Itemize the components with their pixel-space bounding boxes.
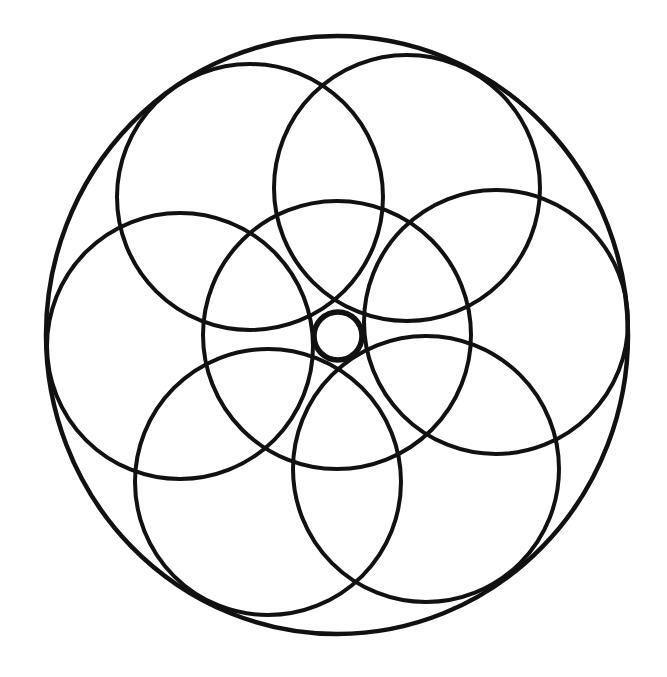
petal-circle-upper-right xyxy=(274,55,540,321)
rosette-diagram xyxy=(0,0,667,677)
petal-circle-left xyxy=(47,213,313,479)
petal-circle-bottom-left xyxy=(135,349,401,615)
petal-circles-group xyxy=(47,55,628,615)
outer-circle xyxy=(46,36,628,634)
circles-canvas xyxy=(0,0,667,677)
petal-circle-upper-left xyxy=(117,64,383,330)
inner-small-circle xyxy=(314,312,362,360)
